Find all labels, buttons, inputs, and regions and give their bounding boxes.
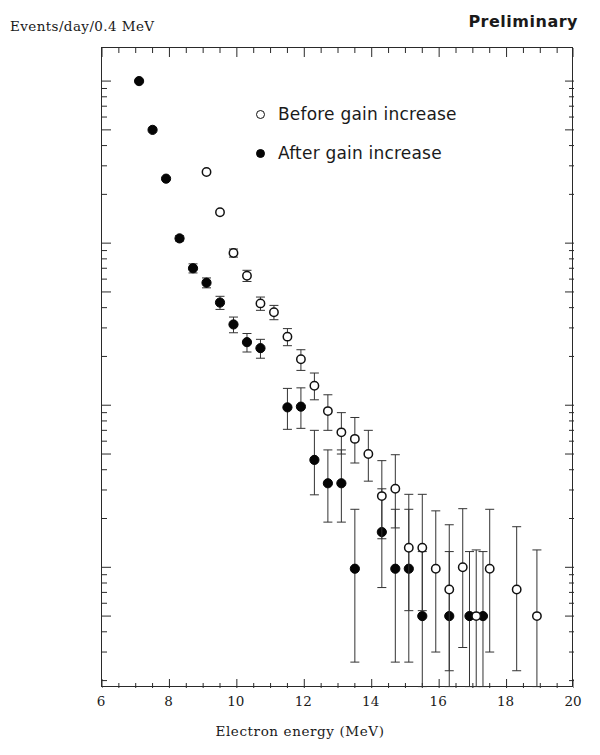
data-point bbox=[512, 585, 520, 593]
legend-entry-after: After gain increase bbox=[256, 143, 442, 163]
x-axis-title: Electron energy (MeV) bbox=[0, 723, 600, 739]
data-point bbox=[432, 565, 440, 573]
data-point bbox=[243, 271, 251, 279]
data-point bbox=[229, 249, 237, 257]
data-point bbox=[242, 338, 251, 347]
data-point bbox=[310, 455, 319, 464]
data-point bbox=[445, 585, 453, 593]
data-point bbox=[283, 332, 291, 340]
x-tick-label: 20 bbox=[564, 693, 581, 709]
filled-circle-marker-icon bbox=[256, 149, 265, 158]
data-point bbox=[351, 435, 359, 443]
data-point bbox=[405, 544, 413, 552]
data-point bbox=[533, 612, 541, 620]
data-point bbox=[161, 174, 170, 183]
data-point bbox=[283, 403, 292, 412]
data-point bbox=[472, 612, 480, 620]
legend-label-after: After gain increase bbox=[278, 143, 442, 163]
x-tick-label: 10 bbox=[227, 693, 244, 709]
data-point bbox=[134, 76, 143, 85]
data-point bbox=[391, 564, 400, 573]
series-before-gain-increase bbox=[202, 168, 541, 687]
data-point bbox=[202, 278, 211, 287]
data-point bbox=[418, 611, 427, 620]
preliminary-annotation: Preliminary bbox=[468, 12, 578, 31]
series-after-gain-increase bbox=[134, 76, 487, 686]
data-point bbox=[364, 450, 372, 458]
data-point bbox=[270, 308, 278, 316]
x-tick-label: 18 bbox=[497, 693, 514, 709]
data-point bbox=[256, 299, 264, 307]
x-tick-label: 12 bbox=[295, 693, 312, 709]
data-point bbox=[296, 402, 305, 411]
data-point bbox=[188, 264, 197, 273]
legend-label-before: Before gain increase bbox=[278, 104, 457, 124]
x-tick-label: 14 bbox=[362, 693, 379, 709]
data-point bbox=[148, 125, 157, 134]
data-point bbox=[202, 168, 210, 176]
data-point bbox=[310, 381, 318, 389]
legend-entry-before: Before gain increase bbox=[256, 104, 457, 124]
data-point bbox=[350, 564, 359, 573]
figure-canvas: Events/day/0.4 MeV Preliminary 10.0005.0… bbox=[0, 0, 600, 755]
data-point bbox=[324, 407, 332, 415]
open-circle-marker-icon bbox=[256, 110, 265, 119]
x-tick-label: 6 bbox=[97, 693, 106, 709]
data-point bbox=[297, 355, 305, 363]
data-point bbox=[391, 485, 399, 493]
data-point bbox=[337, 479, 346, 488]
x-tick-label: 8 bbox=[164, 693, 173, 709]
data-point bbox=[229, 320, 238, 329]
data-point bbox=[215, 298, 224, 307]
y-axis-title: Events/day/0.4 MeV bbox=[10, 18, 154, 34]
data-point bbox=[418, 544, 426, 552]
data-point bbox=[378, 492, 386, 500]
data-point bbox=[323, 479, 332, 488]
data-point bbox=[175, 234, 184, 243]
data-point bbox=[216, 208, 224, 216]
data-point bbox=[486, 565, 494, 573]
x-tick-label: 16 bbox=[430, 693, 447, 709]
data-point bbox=[459, 563, 467, 571]
data-point bbox=[337, 428, 345, 436]
data-point bbox=[256, 344, 265, 353]
